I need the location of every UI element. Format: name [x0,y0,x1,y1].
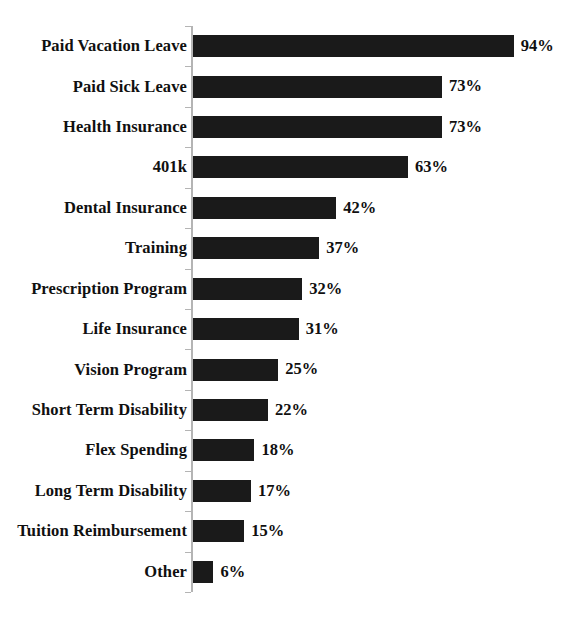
bar-row[interactable]: Paid Sick Leave73% [0,66,583,106]
bar-row[interactable]: Vision Program25% [0,349,583,389]
bar-and-value: 31% [193,318,339,340]
category-label: 401k [153,159,187,176]
bar[interactable] [193,35,514,57]
bar-row[interactable]: Prescription Program32% [0,269,583,309]
bar-and-value: 15% [193,520,284,542]
bar-value-label: 31% [306,321,339,338]
bar-value-label: 22% [275,402,308,419]
bar-value-label: 63% [415,159,448,176]
bar[interactable] [193,278,302,300]
bar-row[interactable]: Health Insurance73% [0,107,583,147]
bar-value-label: 6% [220,564,245,581]
category-label: Life Insurance [82,321,187,338]
category-label: Paid Vacation Leave [41,38,187,55]
bar-row[interactable]: Short Term Disability22% [0,390,583,430]
bar-row[interactable]: Paid Vacation Leave94% [0,26,583,66]
category-label: Dental Insurance [64,200,187,217]
bar-value-label: 32% [309,281,342,298]
bar[interactable] [193,561,213,583]
bar-and-value: 22% [193,399,308,421]
bar-value-label: 18% [261,442,294,459]
bar-value-label: 17% [258,483,291,500]
bar[interactable] [193,480,251,502]
bar-row[interactable]: Flex Spending18% [0,430,583,470]
bar-row[interactable]: Tuition Reimbursement15% [0,511,583,551]
bar[interactable] [193,197,336,219]
plot-area: Paid Vacation Leave94%Paid Sick Leave73%… [0,0,583,618]
bar[interactable] [193,399,268,421]
category-label: Prescription Program [31,281,187,298]
category-label: Short Term Disability [32,402,187,419]
bar-row[interactable]: 401k63% [0,147,583,187]
bar[interactable] [193,520,244,542]
bar-and-value: 73% [193,116,482,138]
category-label: Vision Program [74,361,187,378]
bar-and-value: 94% [193,35,554,57]
bar-row[interactable]: Life Insurance31% [0,309,583,349]
bar-row[interactable]: Other6% [0,552,583,592]
bar-value-label: 73% [449,78,482,95]
category-label: Training [125,240,187,257]
category-label: Paid Sick Leave [73,78,187,95]
bar-chart: Paid Vacation Leave94%Paid Sick Leave73%… [0,0,583,618]
bar[interactable] [193,359,278,381]
bar-and-value: 63% [193,156,448,178]
category-label: Long Term Disability [35,483,187,500]
category-label: Tuition Reimbursement [17,523,187,540]
bar-row[interactable]: Long Term Disability17% [0,471,583,511]
bar-value-label: 37% [326,240,359,257]
axis-tick [185,592,191,593]
bar[interactable] [193,116,442,138]
bar-value-label: 15% [251,523,284,540]
bar-and-value: 6% [193,561,245,583]
bar[interactable] [193,237,319,259]
bar-row[interactable]: Training37% [0,228,583,268]
bar-and-value: 42% [193,197,376,219]
bar-row[interactable]: Dental Insurance42% [0,188,583,228]
bar-and-value: 17% [193,480,291,502]
category-label: Flex Spending [85,442,187,459]
bar[interactable] [193,318,299,340]
bar-and-value: 32% [193,278,342,300]
category-label: Health Insurance [63,119,187,136]
bar-and-value: 37% [193,237,359,259]
bar-value-label: 94% [521,38,554,55]
bar-value-label: 25% [285,361,318,378]
bar-and-value: 73% [193,76,482,98]
bar-value-label: 73% [449,119,482,136]
bar-and-value: 25% [193,359,318,381]
bar[interactable] [193,156,408,178]
bar-value-label: 42% [343,200,376,217]
category-label: Other [144,564,187,581]
bar[interactable] [193,439,254,461]
bar-and-value: 18% [193,439,294,461]
bar[interactable] [193,76,442,98]
